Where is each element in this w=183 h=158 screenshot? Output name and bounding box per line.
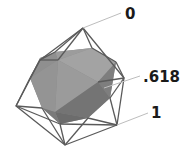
label-zero: 0 xyxy=(125,7,135,22)
label-golden-ratio: .618 xyxy=(143,70,180,85)
diagram: 0 .618 1 xyxy=(0,0,183,158)
label-one: 1 xyxy=(151,106,161,121)
